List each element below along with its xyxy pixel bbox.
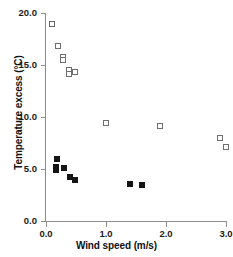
- x-tick: [46, 222, 47, 227]
- x-tick-label: 3.0: [206, 229, 233, 239]
- y-tick: [41, 169, 46, 170]
- x-tick-label: 0.0: [26, 229, 66, 239]
- data-point-open-squares: [72, 69, 78, 75]
- y-axis-title: Temperature excess (°C): [13, 33, 24, 193]
- data-point-filled-squares: [127, 181, 133, 187]
- y-tick: [41, 117, 46, 118]
- data-point-filled-squares: [54, 156, 60, 162]
- data-point-open-squares: [49, 21, 55, 27]
- y-tick: [41, 13, 46, 14]
- data-point-open-squares: [217, 135, 223, 141]
- data-point-filled-squares: [72, 177, 78, 183]
- data-point-open-squares: [157, 123, 163, 129]
- data-point-open-squares: [223, 144, 229, 150]
- data-point-filled-squares: [139, 182, 145, 188]
- data-point-open-squares: [103, 120, 109, 126]
- x-tick-label: 2.0: [146, 229, 186, 239]
- data-point-open-squares: [60, 57, 66, 63]
- data-point-open-squares: [55, 43, 61, 49]
- x-axis-title: Wind speed (m/s): [0, 240, 233, 251]
- x-tick-label: 1.0: [86, 229, 126, 239]
- data-point-filled-squares: [53, 167, 59, 173]
- y-tick: [41, 65, 46, 66]
- y-tick-label: 0.0: [0, 216, 37, 226]
- y-tick-label: 20.0: [0, 8, 37, 18]
- x-tick: [226, 222, 227, 227]
- x-tick: [106, 222, 107, 227]
- x-axis-line: [46, 221, 227, 222]
- plot-area: [46, 13, 226, 221]
- x-tick: [166, 222, 167, 227]
- scatter-chart: 0.05.010.015.020.0 0.01.02.03.0 Wind spe…: [0, 0, 233, 257]
- data-point-filled-squares: [61, 165, 67, 171]
